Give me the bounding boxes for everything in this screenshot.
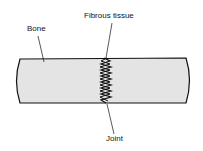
fibrous-tissue-leader-line bbox=[106, 23, 112, 58]
joint-diagram bbox=[0, 0, 203, 151]
bone-label: Bone bbox=[27, 24, 46, 33]
fibrous-tissue-label: Fibrous tissue bbox=[84, 11, 134, 20]
bone-leader-line bbox=[38, 36, 44, 62]
joint-leader-line bbox=[107, 104, 114, 134]
joint-label: Joint bbox=[106, 134, 123, 143]
